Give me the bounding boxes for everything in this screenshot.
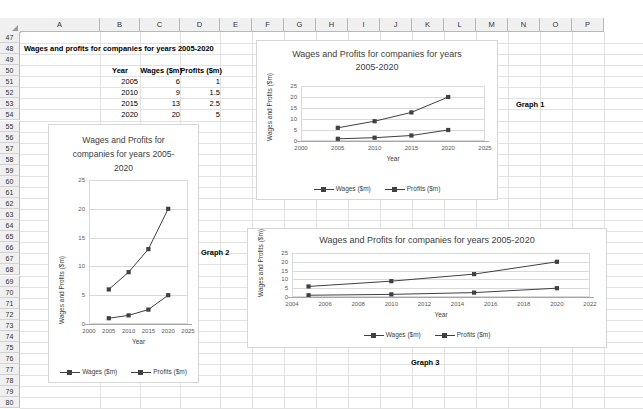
y-axis-tick-label: 25 [67, 177, 85, 183]
row-header-60[interactable]: 60 [0, 176, 20, 187]
y-axis-label: Wages and Profits ($m) [266, 73, 273, 141]
row-header-76[interactable]: 76 [0, 353, 20, 364]
row-header-64[interactable]: 64 [0, 220, 20, 231]
row-header-66[interactable]: 66 [0, 242, 20, 253]
row-header-73[interactable]: 73 [0, 320, 20, 331]
table-cell-year[interactable]: 2020 [100, 109, 138, 120]
x-axis-tick-label: 2015 [397, 145, 425, 152]
table-cell-profits[interactable]: 2.5 [178, 98, 220, 109]
table-cell-wages[interactable]: 6 [138, 76, 180, 87]
table-cell-profits[interactable]: 1.5 [178, 87, 220, 98]
table-cell-year[interactable]: 2010 [100, 87, 138, 98]
table-cell-profits[interactable]: 1 [178, 76, 220, 87]
table-cell-wages[interactable]: 13 [138, 98, 180, 109]
chart-graph2[interactable]: Wages and Profits forcompanies for years… [48, 124, 199, 383]
column-header-j[interactable]: J [380, 18, 412, 32]
data-point-marker [555, 286, 559, 290]
column-header-n[interactable]: N [508, 18, 540, 32]
row-header-58[interactable]: 58 [0, 154, 20, 165]
column-header-g[interactable]: G [284, 18, 316, 32]
row-header-62[interactable]: 62 [0, 198, 20, 209]
legend-item[interactable]: Wages ($m) [364, 331, 421, 339]
row-header-54[interactable]: 54 [0, 109, 20, 120]
row-header-49[interactable]: 49 [0, 54, 20, 65]
legend-item[interactable]: Profits ($m) [435, 331, 491, 339]
table-cell-year[interactable]: 2015 [100, 98, 138, 109]
legend-item[interactable]: Wages ($m) [314, 185, 371, 193]
legend-item[interactable]: Profits ($m) [385, 185, 441, 193]
row-header-50[interactable]: 50 [0, 65, 20, 76]
x-axis-tick-label: 2016 [477, 301, 505, 308]
table-header-wages[interactable]: Wages ($m) [138, 65, 182, 76]
column-header-l[interactable]: L [444, 18, 476, 32]
y-axis-tick-label: 15 [67, 235, 85, 241]
column-header-k[interactable]: K [412, 18, 444, 32]
row-header-75[interactable]: 75 [0, 342, 20, 353]
data-point-marker [555, 260, 559, 264]
row-header-80[interactable]: 80 [0, 397, 20, 408]
column-header-a[interactable]: A [20, 18, 100, 32]
row-header-70[interactable]: 70 [0, 287, 20, 298]
x-axis-tick-label: 2005 [324, 145, 352, 152]
sheet-title-cell[interactable]: Wages and profits for companies for year… [24, 43, 254, 54]
column-header-m[interactable]: M [476, 18, 508, 32]
data-point-marker [446, 95, 450, 99]
table-header-profits[interactable]: Profits ($m) [180, 65, 222, 76]
x-axis-line [297, 141, 489, 142]
row-header-74[interactable]: 74 [0, 331, 20, 342]
column-header-e[interactable]: E [220, 18, 252, 32]
legend-item[interactable]: Profits ($m) [131, 368, 187, 376]
x-axis-tick-label: 2000 [287, 145, 315, 152]
data-point-marker [472, 272, 476, 276]
row-header-55[interactable]: 55 [0, 121, 20, 132]
column-header-i[interactable]: I [348, 18, 380, 32]
row-header-67[interactable]: 67 [0, 253, 20, 264]
chart-legend[interactable]: Wages ($m)Profits ($m) [257, 185, 497, 193]
chart-legend[interactable]: Wages ($m)Profits ($m) [49, 368, 198, 376]
y-axis-tick-label: 10 [279, 116, 297, 122]
column-header-p[interactable]: P [572, 18, 604, 32]
select-all-corner[interactable] [0, 18, 21, 33]
chart-graph3[interactable]: Wages and Profits for companies for year… [247, 228, 607, 348]
series-line [109, 295, 168, 318]
column-header-c[interactable]: C [140, 18, 180, 32]
row-header-78[interactable]: 78 [0, 375, 20, 386]
table-cell-profits[interactable]: 5 [178, 109, 220, 120]
column-header-h[interactable]: H [316, 18, 348, 32]
table-header-year[interactable]: Year [100, 65, 140, 76]
legend-marker-icon [131, 369, 151, 376]
row-header-61[interactable]: 61 [0, 187, 20, 198]
legend-marker-icon [385, 186, 405, 193]
column-header-d[interactable]: D [180, 18, 220, 32]
graph3-caption: Graph 3 [411, 358, 439, 367]
row-header-71[interactable]: 71 [0, 298, 20, 309]
row-header-63[interactable]: 63 [0, 209, 20, 220]
row-header-65[interactable]: 65 [0, 231, 20, 242]
row-header-68[interactable]: 68 [0, 264, 20, 275]
data-point-marker [373, 119, 377, 123]
table-cell-wages[interactable]: 20 [138, 109, 180, 120]
row-header-48[interactable]: 48 [0, 43, 20, 54]
row-header-56[interactable]: 56 [0, 132, 20, 143]
row-header-77[interactable]: 77 [0, 364, 20, 375]
column-header-o[interactable]: O [540, 18, 572, 32]
row-header-53[interactable]: 53 [0, 98, 20, 109]
column-header-f[interactable]: F [252, 18, 284, 32]
table-cell-wages[interactable]: 9 [138, 87, 180, 98]
row-header-57[interactable]: 57 [0, 143, 20, 154]
row-header-52[interactable]: 52 [0, 87, 20, 98]
chart-graph1[interactable]: Wages and Profits for companies for year… [256, 40, 498, 200]
legend-item[interactable]: Wages ($m) [60, 368, 117, 376]
chart-legend[interactable]: Wages ($m)Profits ($m) [248, 331, 606, 339]
x-axis-tick-label: 2025 [471, 145, 498, 152]
row-header-47[interactable]: 47 [0, 32, 20, 43]
table-cell-year[interactable]: 2005 [100, 76, 138, 87]
row-header-79[interactable]: 79 [0, 386, 20, 397]
column-header-b[interactable]: B [100, 18, 140, 32]
row-header-51[interactable]: 51 [0, 76, 20, 87]
row-header-69[interactable]: 69 [0, 276, 20, 287]
series-line [309, 288, 557, 295]
row-header-72[interactable]: 72 [0, 309, 20, 320]
series-layer [301, 86, 485, 141]
row-header-59[interactable]: 59 [0, 165, 20, 176]
